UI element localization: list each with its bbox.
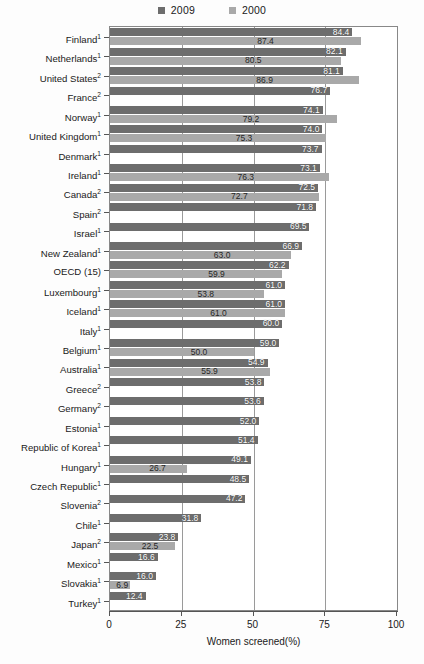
x-tick-label-50: 50 xyxy=(247,619,258,630)
category-footnote: 1 xyxy=(97,325,101,332)
bar-row: 23.822.5 xyxy=(110,533,397,552)
bar-2000: 75.3 xyxy=(110,134,326,142)
bar-2009: 53.6 xyxy=(110,397,264,405)
bar-value-2009: 51.4 xyxy=(238,436,258,445)
category-label: Greece2 xyxy=(66,384,101,395)
bar-2000: 6.9 xyxy=(110,581,130,589)
bar-row: 59.050.0 xyxy=(110,339,397,358)
bar-value-2000: 26.7 xyxy=(149,464,166,473)
bar-2009: 49.1 xyxy=(110,456,251,464)
bar-2000: 59.9 xyxy=(110,270,282,278)
category-label: Belgium1 xyxy=(63,345,101,356)
category-label: United States2 xyxy=(40,73,101,84)
bar-2009: 71.8 xyxy=(110,203,316,211)
bar-row: 62.259.9 xyxy=(110,261,397,280)
category-label: Hungary1 xyxy=(61,462,101,473)
category-label: Chile1 xyxy=(75,520,101,531)
bar-row: 81.186.9 xyxy=(110,67,397,86)
category-footnote: 2 xyxy=(97,402,101,409)
x-tick-label-0: 0 xyxy=(106,619,112,630)
x-tick-label-75: 75 xyxy=(319,619,330,630)
category-footnote: 2 xyxy=(97,383,101,390)
bar-2009: 74.0 xyxy=(110,125,322,133)
bar-value-2009: 84.4 xyxy=(333,28,353,37)
bar-2009: 73.1 xyxy=(110,164,320,172)
bar-row: 52.0 xyxy=(110,417,397,436)
category-label: Mexico1 xyxy=(67,559,101,570)
category-label: France2 xyxy=(67,92,101,103)
bar-2009: 48.5 xyxy=(110,475,249,483)
bar-row: 72.572.7 xyxy=(110,184,397,203)
bar-value-2000: 22.5 xyxy=(142,542,159,551)
bar-value-2009: 31.8 xyxy=(182,514,202,523)
category-label: Turkey1 xyxy=(68,598,101,609)
x-tick-0 xyxy=(109,611,110,616)
x-tick-label-25: 25 xyxy=(175,619,186,630)
bar-row: 48.5 xyxy=(110,475,397,494)
category-label: Germany2 xyxy=(58,403,101,414)
plot-area: 84.487.482.180.581.186.976.774.179.274.0… xyxy=(109,26,398,611)
bar-value-2009: 81.1 xyxy=(323,67,343,76)
bar-2009: 60.0 xyxy=(110,320,282,328)
category-footnote: 1 xyxy=(97,480,101,487)
legend-swatch-2009 xyxy=(158,7,165,14)
bar-value-2009: 53.8 xyxy=(245,378,265,387)
legend-swatch-2000 xyxy=(229,7,236,14)
legend-label-2000: 2000 xyxy=(242,4,266,16)
bar-2009: 74.1 xyxy=(110,106,323,114)
bar-value-2000: 55.9 xyxy=(201,367,218,376)
legend-item-2000: 2000 xyxy=(229,4,266,16)
bar-2000: 22.5 xyxy=(110,542,175,550)
category-footnote: 1 xyxy=(97,150,101,157)
legend-item-2009: 2009 xyxy=(158,4,195,16)
bar-value-2009: 73.1 xyxy=(300,164,320,173)
category-footnote: 1 xyxy=(97,558,101,565)
category-footnote: 1 xyxy=(97,344,101,351)
category-footnote: 1 xyxy=(97,33,101,40)
bar-2009: 82.1 xyxy=(110,48,346,56)
category-footnote: 2 xyxy=(97,538,101,545)
bar-value-2009: 74.0 xyxy=(303,125,323,134)
category-footnote: 2 xyxy=(97,208,101,215)
bar-value-2009: 53.6 xyxy=(244,397,264,406)
bar-value-2000: 63.0 xyxy=(214,251,231,260)
bar-2000: 53.8 xyxy=(110,290,264,298)
bar-2009: 16.6 xyxy=(110,553,158,561)
bar-row: 66.963.0 xyxy=(110,242,397,261)
x-axis: 0255075100 xyxy=(109,611,398,612)
category-label: Slovakia1 xyxy=(61,578,101,589)
bar-row: 61.061.0 xyxy=(110,300,397,319)
bar-2000: 79.2 xyxy=(110,115,337,123)
category-footnote: 1 xyxy=(97,577,101,584)
bar-value-2009: 82.1 xyxy=(326,47,346,56)
category-footnote: 1 xyxy=(97,363,101,370)
x-tick-75 xyxy=(324,611,325,616)
category-footnote: 1 xyxy=(97,111,101,118)
x-tick-50 xyxy=(253,611,254,616)
bar-2000: 76.3 xyxy=(110,173,329,181)
bar-value-2009: 59.0 xyxy=(260,339,280,348)
bar-2000: 86.9 xyxy=(110,76,359,84)
bar-value-2009: 52.0 xyxy=(240,417,260,426)
bar-row: 49.126.7 xyxy=(110,456,397,475)
bar-value-2000: 76.3 xyxy=(237,173,254,182)
category-label: Japan2 xyxy=(71,539,101,550)
bar-2009: 52.0 xyxy=(110,417,259,425)
category-footnote: 1 xyxy=(97,519,101,526)
bar-2009: 54.9 xyxy=(110,359,268,367)
bar-row: 16.6 xyxy=(110,553,397,572)
bar-row: 53.6 xyxy=(110,397,397,416)
bar-2000: 55.9 xyxy=(110,368,270,376)
category-footnote: 1 xyxy=(97,286,101,293)
category-label: Israel1 xyxy=(74,228,101,239)
category-label: Slovenia2 xyxy=(61,500,101,511)
bar-2009: 73.7 xyxy=(110,145,322,153)
bar-value-2009: 16.6 xyxy=(138,553,158,562)
bar-value-2009: 23.8 xyxy=(159,533,179,542)
category-footnote: 1 xyxy=(97,461,101,468)
category-footnote: 2 xyxy=(97,91,101,98)
bar-2009: 53.8 xyxy=(110,378,264,386)
bar-value-2009: 61.0 xyxy=(266,281,286,290)
x-tick-25 xyxy=(181,611,182,616)
category-label: Czech Republic1 xyxy=(30,481,101,492)
